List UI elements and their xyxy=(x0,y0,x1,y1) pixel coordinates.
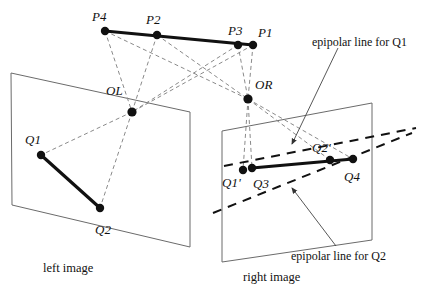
projection-ray xyxy=(105,31,132,112)
scene-point-P2 xyxy=(153,31,161,39)
scene-point-P4 xyxy=(101,27,109,35)
image-point-Q4 xyxy=(349,155,357,163)
left-image-caption: left image xyxy=(43,262,93,275)
point-label-Q1-prime: Q1' xyxy=(222,176,241,189)
projection-ray xyxy=(238,45,248,99)
projection-rays xyxy=(41,31,353,208)
scene-point-P1 xyxy=(249,41,257,49)
camera-center-label-left: OL xyxy=(106,84,123,97)
image-point-Q1 xyxy=(37,151,45,159)
image-point-Q2 xyxy=(96,204,104,212)
point-markers xyxy=(37,27,357,212)
image-point-Q2p xyxy=(326,156,334,164)
point-label-P3: P3 xyxy=(228,24,242,37)
projection-ray xyxy=(248,99,252,168)
left-image-plane xyxy=(11,73,190,247)
point-label-Q3: Q3 xyxy=(253,177,269,190)
leader-epi-q2 xyxy=(292,188,336,246)
right-image-caption: right image xyxy=(243,271,300,284)
projection-ray xyxy=(248,99,353,159)
projection-ray xyxy=(41,112,132,155)
projection-ray xyxy=(243,99,248,170)
point-label-Q4: Q4 xyxy=(344,170,360,183)
left-image-segment-Q1-Q2 xyxy=(41,155,100,208)
image-point-Q1p xyxy=(239,166,247,174)
epipolar-line-label-q1: epipolar line for Q1 xyxy=(312,36,407,48)
camera-center-OR xyxy=(243,94,252,103)
camera-center-OL xyxy=(127,107,136,116)
point-label-P2: P2 xyxy=(146,13,160,26)
camera-center-label-right: OR xyxy=(255,78,272,91)
epipolar-line-label-q2: epipolar line for Q2 xyxy=(291,250,386,262)
leader-epi-q1 xyxy=(292,48,338,144)
point-label-Q2: Q2 xyxy=(95,223,111,236)
projection-ray xyxy=(248,45,253,99)
projection-ray xyxy=(132,45,238,112)
projection-ray xyxy=(100,112,132,208)
point-label-P4: P4 xyxy=(92,10,106,23)
scene-point-P3 xyxy=(234,41,242,49)
epipolar-geometry-figure: P4 P2 P3 P1 OL OR Q1 Q2 Q1' Q3 Q2' Q4 ep… xyxy=(0,0,438,292)
image-point-Q3 xyxy=(248,164,256,172)
point-label-P1: P1 xyxy=(258,26,272,39)
point-label-Q1: Q1 xyxy=(25,133,41,146)
point-label-Q2-prime: Q2' xyxy=(312,141,331,154)
